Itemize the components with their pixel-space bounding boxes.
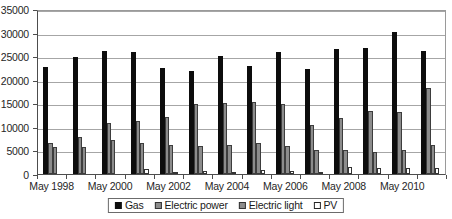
bar-pv: [144, 169, 148, 174]
bar-light: [285, 146, 289, 174]
bar-group: [329, 11, 358, 174]
legend-label: Electric light: [249, 199, 303, 211]
x-tick-label: May 2008: [321, 180, 366, 192]
x-tick-mark: [329, 175, 330, 179]
plot-area: [37, 10, 446, 175]
bar-light: [256, 143, 260, 174]
legend-item[interactable]: Electric light: [239, 199, 303, 211]
x-tick-mark: [183, 175, 184, 179]
bar-pv: [290, 171, 294, 174]
bar-pv: [319, 172, 323, 174]
x-axis-labels: May 1998May 2000May 2002May 2004May 2006…: [37, 180, 446, 196]
bar-group: [300, 11, 329, 174]
gas-swatch: [115, 202, 122, 209]
x-tick-mark: [358, 175, 359, 179]
bar-group: [241, 11, 270, 174]
x-tick-label: May 2000: [88, 180, 133, 192]
bar-light: [227, 145, 231, 174]
bar-group: [125, 11, 154, 174]
bar-pv: [406, 168, 410, 174]
x-tick-mark: [125, 175, 126, 179]
x-tick-mark: [300, 175, 301, 179]
bar-pv: [348, 167, 352, 174]
y-tick-label: 30000: [1, 28, 29, 40]
y-axis: 05000100001500020000250003000035000: [0, 10, 33, 175]
x-tick-mark: [388, 175, 389, 179]
bar-chart: 05000100001500020000250003000035000 May …: [0, 0, 452, 219]
legend-label: PV: [324, 199, 338, 211]
x-tick-mark: [446, 175, 447, 179]
bar-group: [271, 11, 300, 174]
y-tick-label: 35000: [1, 4, 29, 16]
bar-group: [67, 11, 96, 174]
bar-group: [183, 11, 212, 174]
bar-pv: [203, 171, 207, 174]
x-tick-mark: [212, 175, 213, 179]
bar-light: [82, 147, 86, 174]
legend-label: Gas: [125, 199, 144, 211]
bar-light: [53, 147, 57, 174]
y-tick-label: 5000: [6, 145, 29, 157]
bar-group: [387, 11, 416, 174]
bar-light: [111, 140, 115, 174]
y-tick-label: 10000: [1, 122, 29, 134]
bar-pv: [261, 170, 265, 174]
x-tick-mark: [66, 175, 67, 179]
legend-item[interactable]: Gas: [115, 199, 144, 211]
x-tick-mark: [154, 175, 155, 179]
bar-group: [212, 11, 241, 174]
x-tick-label: May 2006: [263, 180, 308, 192]
bar-light: [169, 145, 173, 174]
bar-pv: [435, 168, 439, 174]
x-tick-mark: [242, 175, 243, 179]
bar-light: [314, 150, 318, 175]
bar-group: [358, 11, 387, 174]
bar-pv: [232, 172, 236, 174]
legend-label: Electric power: [165, 199, 228, 211]
bars-layer: [38, 11, 445, 174]
x-tick-label: May 2002: [146, 180, 191, 192]
y-tick-label: 20000: [1, 75, 29, 87]
bar-group: [38, 11, 67, 174]
bar-group: [96, 11, 125, 174]
bar-pv: [377, 168, 381, 174]
x-tick-mark: [417, 175, 418, 179]
x-tick-mark: [271, 175, 272, 179]
y-tick-label: 0: [23, 169, 29, 181]
legend-item[interactable]: Electric power: [155, 199, 228, 211]
bar-group: [154, 11, 183, 174]
bar-light: [198, 146, 202, 174]
y-tick-label: 25000: [1, 51, 29, 63]
electric-power-swatch: [155, 202, 162, 209]
x-tick-mark: [37, 175, 38, 179]
bar-group: [416, 11, 445, 174]
pv-swatch: [314, 202, 321, 209]
x-tick-label: May 2004: [205, 180, 250, 192]
bar-pv: [173, 172, 177, 174]
x-tick-mark: [95, 175, 96, 179]
y-tick-label: 15000: [1, 98, 29, 110]
legend-item[interactable]: PV: [314, 199, 338, 211]
x-tick-label: May 2010: [380, 180, 425, 192]
chart-legend: GasElectric powerElectric lightPV: [108, 198, 344, 213]
electric-light-swatch: [239, 202, 246, 209]
x-tick-label: May 1998: [29, 180, 74, 192]
